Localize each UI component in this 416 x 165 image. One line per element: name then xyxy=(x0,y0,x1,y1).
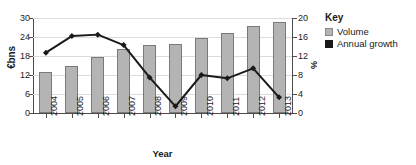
y-axis-left-tick xyxy=(29,113,33,114)
x-axis-tick xyxy=(227,114,228,118)
black-square-icon xyxy=(325,40,333,48)
x-axis-tick-label-2011: 2011 xyxy=(232,97,241,116)
x-axis-tick xyxy=(98,114,99,118)
x-axis-tick xyxy=(150,114,151,118)
y-axis-right-tick xyxy=(293,56,297,57)
y-axis-right-title: % xyxy=(309,53,319,77)
legend-item-annual-growth: Annual growth xyxy=(325,39,416,49)
y-axis-right-tick-label: 4 xyxy=(298,90,303,99)
x-axis-title: Year xyxy=(30,148,295,159)
x-axis-tick-label-2013: 2013 xyxy=(284,96,293,116)
y-axis-right-tick xyxy=(293,113,297,114)
growth-marker-2006: Annual growth 2006: 16.5% xyxy=(95,32,101,38)
x-axis-tick xyxy=(175,114,176,118)
x-axis-tick-label-2005: 2005 xyxy=(76,96,85,116)
y-axis-right-tick xyxy=(293,75,297,76)
legend-item-label: Volume xyxy=(337,27,369,37)
x-axis-tick-label-2007: 2007 xyxy=(128,96,137,116)
x-axis-tick-label-2009: 2009 xyxy=(180,96,189,116)
x-axis-tick-label-2008: 2008 xyxy=(154,96,163,116)
y-axis-right-tick-label: 12 xyxy=(298,52,308,61)
y-axis-left-tick xyxy=(29,75,33,76)
legend-item-label: Annual growth xyxy=(337,39,398,49)
y-axis-right-tick-label: 16 xyxy=(298,33,308,42)
y-axis-left-title: €bns xyxy=(6,38,17,78)
x-axis-tick xyxy=(72,114,73,118)
y-axis-right-tick-label: 20 xyxy=(298,14,308,23)
y-axis-right-tick xyxy=(293,18,297,19)
y-axis-left-tick xyxy=(29,18,33,19)
legend-title: Key xyxy=(325,12,416,23)
y-axis-left-tick xyxy=(29,94,33,95)
x-axis-tick xyxy=(201,114,202,118)
growth-marker-2011: Annual growth 2011: 7.3% xyxy=(224,75,230,81)
y-axis-left-tick xyxy=(29,37,33,38)
x-axis-tick-label-2006: 2006 xyxy=(102,96,111,116)
y-axis-right-tick xyxy=(293,94,297,95)
chart-container: €bns % Year Annual growth 2004: 12.7%Ann… xyxy=(0,0,416,165)
y-axis-right-tick-label: 0 xyxy=(298,109,303,118)
x-axis-tick-label-2004: 2004 xyxy=(50,96,59,116)
y-axis-right-tick xyxy=(293,37,297,38)
legend: Key Volume Annual growth xyxy=(325,12,416,51)
y-axis-right-tick-label: 8 xyxy=(298,71,303,80)
gray-square-icon xyxy=(325,28,333,36)
y-axis-left-tick xyxy=(29,56,33,57)
legend-item-volume: Volume xyxy=(325,27,416,37)
x-axis-tick xyxy=(46,114,47,118)
x-axis-tick-label-2010: 2010 xyxy=(206,96,215,116)
x-axis-tick xyxy=(279,114,280,118)
x-axis-tick-label-2012: 2012 xyxy=(258,96,267,116)
x-axis-tick xyxy=(253,114,254,118)
x-axis-tick xyxy=(124,114,125,118)
